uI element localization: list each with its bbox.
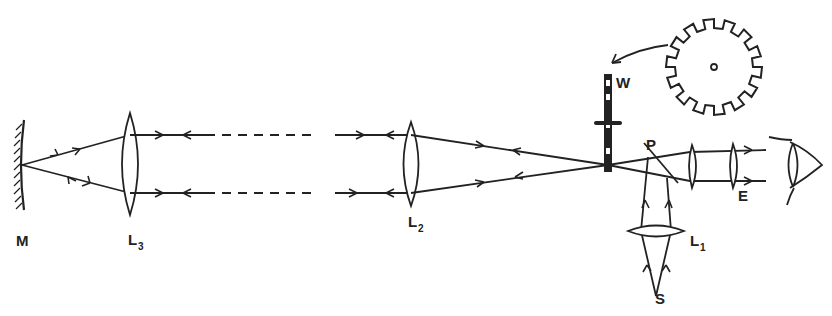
label-l3-sub: 3 [138, 241, 144, 252]
label-m: M [16, 232, 29, 249]
lens-l3 [122, 113, 138, 215]
label-l1-sub: 1 [700, 242, 706, 253]
label-p: P [646, 136, 656, 153]
fizeau-diagram: M L 3 L 2 W P E L 1 S [0, 0, 832, 316]
eye-icon [769, 137, 822, 205]
label-l3: L [128, 231, 137, 248]
ray [22, 135, 130, 165]
label-l2-sub: 2 [418, 223, 424, 234]
label-s: S [655, 290, 665, 307]
label-w: W [616, 74, 631, 91]
label-l1: L [690, 232, 699, 249]
label-l2: L [408, 213, 417, 230]
ray [22, 165, 130, 193]
lens-l1 [628, 226, 684, 237]
eyepiece-lens-2 [730, 144, 737, 188]
label-e: E [738, 187, 748, 204]
gear-outline [666, 19, 762, 115]
